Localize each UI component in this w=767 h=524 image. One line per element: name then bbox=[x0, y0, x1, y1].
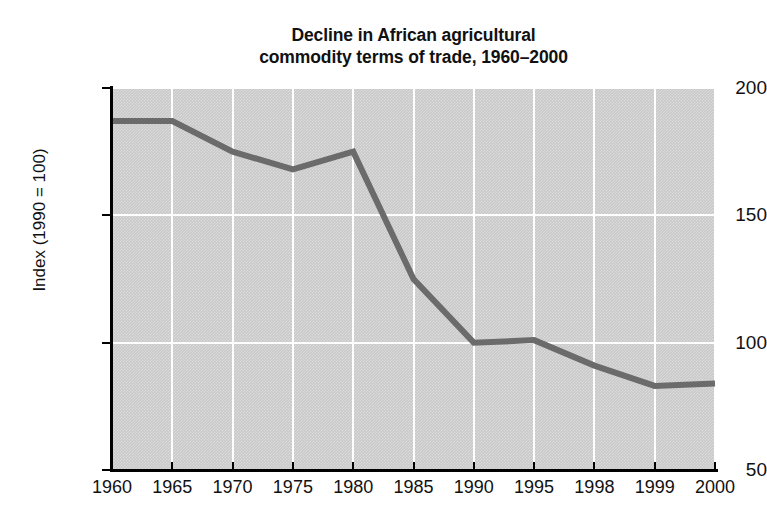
x-tick-1995 bbox=[533, 462, 535, 472]
y-tick-label-200: 200 bbox=[671, 78, 767, 97]
y-axis-line bbox=[110, 86, 113, 472]
y-tick-label-100: 100 bbox=[671, 333, 767, 352]
chart-title-line-1: Decline in African agricultural bbox=[112, 24, 715, 46]
y-tick-200 bbox=[102, 87, 112, 89]
x-tick-label-2000: 2000 bbox=[678, 478, 752, 496]
x-tick-1980 bbox=[352, 462, 354, 472]
x-tick-1990 bbox=[473, 462, 475, 472]
y-axis-title: Index (1990 = 100) bbox=[30, 120, 50, 320]
x-tick-1999 bbox=[654, 462, 656, 472]
x-tick-1965 bbox=[171, 462, 173, 472]
y-tick-label-150: 150 bbox=[671, 205, 767, 224]
chart-title-line-2: commodity terms of trade, 1960–2000 bbox=[112, 46, 715, 68]
x-tick-2000 bbox=[714, 462, 716, 472]
chart-title: Decline in African agricultural commodit… bbox=[112, 24, 715, 69]
y-tick-150 bbox=[102, 214, 112, 216]
plot-area bbox=[112, 88, 715, 470]
x-tick-1970 bbox=[232, 462, 234, 472]
x-tick-1998 bbox=[593, 462, 595, 472]
y-tick-50 bbox=[102, 469, 112, 471]
chart-figure: Decline in African agricultural commodit… bbox=[0, 0, 767, 524]
y-tick-100 bbox=[102, 342, 112, 344]
x-tick-1985 bbox=[413, 462, 415, 472]
x-tick-1975 bbox=[292, 462, 294, 472]
data-series-line bbox=[112, 88, 715, 470]
